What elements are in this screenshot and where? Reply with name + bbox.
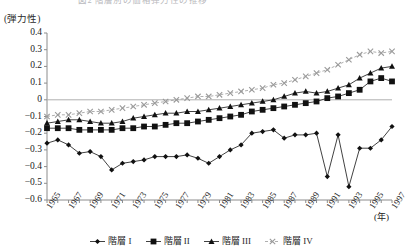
square-marker (66, 125, 72, 131)
legend-item-label: 階層 I (108, 237, 131, 246)
diamond-marker (163, 154, 168, 159)
square-marker (378, 75, 384, 81)
diamond-marker (141, 157, 146, 162)
cross-marker (303, 74, 308, 79)
square-marker (206, 117, 212, 123)
diamond-marker (88, 149, 93, 154)
triangle-marker (203, 237, 220, 246)
diamond-marker (357, 146, 362, 151)
diamond-marker (303, 132, 308, 137)
legend-item-label: 階層 II (164, 237, 190, 246)
series-line (47, 78, 392, 130)
square-marker (152, 124, 158, 130)
y-axis-tick-label: 0 (8, 94, 42, 104)
square-marker (87, 127, 93, 133)
diamond-marker (325, 174, 330, 179)
diamond-marker (55, 137, 60, 142)
y-axis-tick-label: −0.4 (8, 161, 42, 171)
diamond-marker (44, 141, 49, 146)
diamond-marker (260, 129, 265, 134)
square-marker (44, 125, 50, 131)
diamond-marker (152, 154, 157, 159)
diamond-marker (120, 161, 125, 166)
square-marker (314, 99, 320, 105)
diamond-marker (314, 131, 319, 136)
cross-marker (292, 77, 297, 82)
diamond-marker (89, 237, 106, 246)
triangle-marker (357, 75, 363, 81)
square-marker (227, 114, 233, 120)
diamond-marker (335, 132, 340, 137)
diamond-marker (206, 161, 211, 166)
square-marker (55, 125, 61, 131)
cross-marker (335, 62, 340, 67)
square-marker (303, 100, 309, 106)
cross-marker (357, 52, 362, 57)
diamond-marker (195, 156, 200, 161)
cross-marker (368, 49, 373, 54)
square-marker (281, 104, 287, 110)
diamond-marker (95, 239, 100, 244)
square-marker (109, 127, 115, 133)
square-marker (217, 115, 223, 121)
x-axis-unit-label: (年) (374, 210, 389, 223)
diamond-marker (292, 132, 297, 137)
y-axis-tick-label: 0.4 (8, 27, 42, 37)
diamond-marker (228, 147, 233, 152)
square-marker (184, 120, 190, 126)
legend-item-label: 階層 III (222, 237, 251, 246)
legend-item[interactable]: 階層 I (89, 237, 131, 246)
legend-item[interactable]: 階層 II (145, 237, 190, 246)
y-axis-tick-label: −0.5 (8, 177, 42, 187)
diamond-marker (217, 154, 222, 159)
y-axis-tick-label: −0.6 (8, 194, 42, 204)
triangle-marker (346, 82, 352, 88)
diamond-marker (346, 184, 351, 189)
legend-item[interactable]: 階層 IV (264, 237, 313, 246)
diamond-marker (185, 152, 190, 157)
triangle-marker (389, 63, 395, 69)
square-marker (271, 105, 277, 111)
y-axis-tick-label: 0.3 (8, 44, 42, 54)
square-marker (368, 79, 374, 85)
square-marker (163, 122, 169, 128)
y-axis-tick-label: 0.1 (8, 77, 42, 87)
diamond-marker (131, 159, 136, 164)
square-marker (335, 94, 341, 100)
square-marker (346, 90, 352, 96)
square-marker (389, 79, 395, 85)
legend-item-label: 階層 IV (283, 237, 313, 246)
square-marker (76, 127, 82, 133)
legend-item[interactable]: 階層 III (203, 237, 251, 246)
data-series-2 (44, 75, 395, 133)
square-marker (260, 107, 266, 113)
cross-marker (314, 70, 319, 75)
square-marker (173, 120, 179, 126)
cross-marker (264, 237, 281, 246)
square-marker (238, 112, 244, 118)
cross-marker (66, 112, 71, 117)
y-axis-tick-label: −0.2 (8, 127, 42, 137)
square-marker (195, 119, 201, 125)
y-axis-tick-label: −0.1 (8, 111, 42, 121)
y-axis-tick-label: −0.3 (8, 144, 42, 154)
square-marker (98, 127, 104, 133)
square-marker (120, 125, 126, 131)
square-marker (150, 239, 156, 245)
square-marker (324, 95, 330, 101)
square-marker (130, 125, 136, 131)
triangle-marker (303, 88, 309, 94)
chart-legend: 階層 I階層 II階層 III階層 IV (0, 234, 402, 249)
triangle-marker (367, 70, 373, 76)
y-axis-tick-label: 0.2 (8, 60, 42, 70)
diamond-marker (174, 154, 179, 159)
square-marker (292, 102, 298, 108)
cross-marker (281, 80, 286, 85)
cross-marker (346, 57, 351, 62)
cross-marker (325, 67, 330, 72)
data-series-1 (44, 124, 394, 189)
square-marker (357, 87, 363, 93)
square-marker (141, 124, 147, 130)
